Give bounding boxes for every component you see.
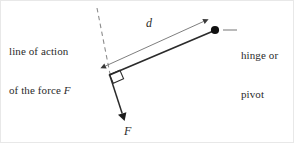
lever-arm-line: [110, 31, 215, 75]
label-line-of-action-line2: of the force F: [9, 84, 71, 97]
label-hinge-line1: hinge or: [241, 49, 278, 62]
label-line-of-action-force-symbol: F: [64, 84, 71, 96]
label-line-of-action-line1: line of action: [9, 45, 71, 58]
label-force-f: F: [124, 125, 131, 137]
distance-measure-arrow: [106, 22, 204, 67]
label-distance-d: d: [146, 17, 152, 29]
pivot-point-dot: [211, 26, 219, 34]
label-line-of-action: line of action of the force F: [9, 19, 71, 123]
line-of-action-dashed-line: [97, 8, 110, 74]
label-hinge-or-pivot: hinge or pivot: [241, 23, 278, 127]
torque-diagram: line of action of the force F hinge or p…: [0, 0, 294, 143]
label-hinge-line2: pivot: [241, 88, 278, 101]
label-line-of-action-line2-prefix: of the force: [9, 84, 64, 96]
